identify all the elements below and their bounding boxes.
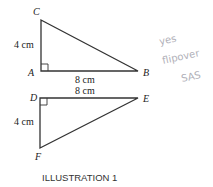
handwritten-yes: yes — [158, 33, 177, 47]
triangle-def-outline — [40, 98, 138, 148]
triangle-cab: C A B 4 cm 8 cm — [14, 6, 149, 85]
handwritten-sas: SAS — [180, 69, 202, 84]
vertex-label-b: B — [143, 67, 149, 78]
right-angle-marker-d — [40, 98, 47, 105]
vertex-label-e: E — [142, 93, 149, 104]
triangle-cab-outline — [41, 20, 138, 71]
side-ab-length: 8 cm — [75, 74, 95, 85]
side-de-length: 8 cm — [75, 85, 95, 96]
right-angle-marker-a — [41, 64, 48, 71]
illustration-caption: ILLUSTRATION 1 — [42, 172, 117, 183]
vertex-label-d: D — [29, 92, 38, 103]
side-df-length: 4 cm — [14, 116, 34, 127]
vertex-label-f: F — [34, 151, 42, 162]
side-ca-length: 4 cm — [14, 39, 34, 50]
triangle-def: D E F 4 cm 8 cm — [14, 85, 149, 162]
handwritten-note: yes flipover SAS — [158, 33, 202, 84]
diagram-canvas: C A B 4 cm 8 cm D E F 4 cm 8 cm yes flip… — [0, 0, 213, 187]
handwritten-flipover: flipover — [161, 47, 201, 66]
vertex-label-a: A — [27, 67, 35, 78]
vertex-label-c: C — [33, 6, 40, 17]
